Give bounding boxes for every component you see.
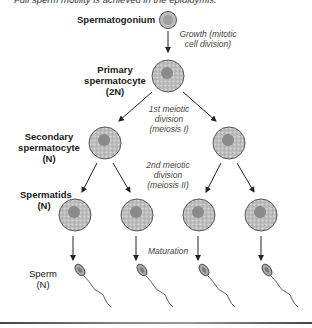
note-meiosis2-line2: division bbox=[141, 170, 195, 180]
note-meiosis2: 2nd meiotic division (meiosis II) bbox=[141, 160, 195, 190]
label-secondary-spermatocyte: Secondary spermatocyte (N) bbox=[14, 131, 84, 164]
label-sperm: Sperm (N) bbox=[26, 268, 60, 290]
spermatid-cell-2 bbox=[121, 199, 153, 231]
spermatid-cell-3 bbox=[183, 199, 215, 231]
divider-line bbox=[0, 322, 312, 324]
label-secondary-line2: spermatocyte bbox=[14, 142, 84, 153]
note-meiosis1-line3: (meiosis I) bbox=[143, 124, 195, 134]
sperm-cell-4 bbox=[260, 262, 298, 307]
label-primary-line1: Primary bbox=[82, 64, 148, 75]
arrow-meiosis2-1 bbox=[82, 163, 97, 192]
label-spermatids-line2: (N) bbox=[20, 200, 68, 211]
note-growth-line1: Growth (mitotic bbox=[178, 29, 238, 39]
sperm-cell-1 bbox=[73, 262, 111, 307]
note-meiosis1-line2: division bbox=[143, 114, 195, 124]
note-growth: Growth (mitotic cell division) bbox=[178, 29, 238, 49]
label-sperm-line1: Sperm bbox=[26, 268, 60, 279]
note-meiosis2-line1: 2nd meiotic bbox=[141, 160, 195, 170]
label-primary-spermatocyte: Primary spermatocyte (2N) bbox=[82, 64, 148, 97]
label-primary-line2: spermatocyte bbox=[82, 75, 148, 86]
sperm-cell-3 bbox=[197, 262, 235, 307]
spermatogonium-cell bbox=[160, 12, 177, 29]
label-spermatids-line1: Spermatids bbox=[20, 189, 68, 200]
label-sperm-line2: (N) bbox=[26, 279, 60, 290]
secondary-spermatocyte-cell-left bbox=[89, 127, 121, 159]
sperm-cell-2 bbox=[135, 262, 173, 307]
note-maturation: Maturation bbox=[148, 246, 188, 256]
label-primary-line3: (2N) bbox=[82, 86, 148, 97]
label-secondary-line1: Secondary bbox=[14, 131, 84, 142]
secondary-spermatocyte-cell-right bbox=[213, 127, 245, 159]
primary-spermatocyte-cell bbox=[152, 60, 184, 92]
spermatid-cell-4 bbox=[245, 199, 277, 231]
note-meiosis2-line3: (meiosis II) bbox=[141, 180, 195, 190]
label-secondary-line3: (N) bbox=[14, 153, 84, 164]
note-meiosis1: 1st meiotic division (meiosis I) bbox=[143, 104, 195, 134]
arrow-meiosis2-4 bbox=[237, 163, 254, 192]
note-growth-line2: cell division) bbox=[178, 39, 238, 49]
label-spermatids: Spermatids (N) bbox=[20, 189, 68, 211]
label-spermatogonium: Spermatogonium bbox=[77, 14, 155, 25]
note-meiosis1-line1: 1st meiotic bbox=[143, 104, 195, 114]
arrow-meiosis2-3 bbox=[206, 163, 221, 192]
arrow-meiosis2-2 bbox=[113, 163, 130, 192]
